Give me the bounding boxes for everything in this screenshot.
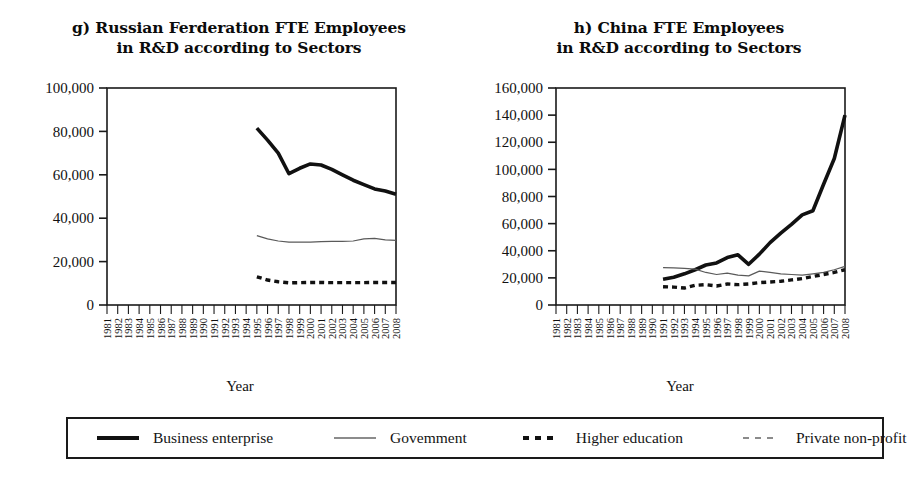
plot-frame <box>556 88 845 305</box>
y-tick-label: 40,000 <box>53 210 94 226</box>
x-tick-label: 1983 <box>123 318 134 339</box>
y-tick-label: 120,000 <box>494 134 543 150</box>
x-tick-label: 2002 <box>327 318 338 339</box>
x-tick-label: 1984 <box>134 317 145 339</box>
y-tick-label: 40,000 <box>502 243 543 259</box>
xaxis-label-russia: Year <box>0 378 450 395</box>
x-tick-label: 1993 <box>230 318 241 339</box>
x-tick-label: 1981 <box>102 318 113 339</box>
x-tick-label: 2001 <box>765 318 776 339</box>
x-tick-label: 2000 <box>754 318 765 339</box>
x-tick-label: 1995 <box>701 318 712 339</box>
series-line <box>257 236 396 243</box>
x-tick-label: 1983 <box>572 318 583 339</box>
legend-label-higher-education: Higher education <box>576 429 683 447</box>
x-tick-label: 1987 <box>166 318 177 339</box>
x-tick-label: 1997 <box>273 318 284 339</box>
legend-label-private-non-profit: Private non-profit <box>796 429 907 447</box>
x-tick-label: 1997 <box>722 318 733 339</box>
x-tick-label: 1981 <box>551 318 562 339</box>
y-tick-label: 100,000 <box>45 80 94 96</box>
legend-swatch-thick-solid <box>96 432 140 444</box>
x-tick-label: 1990 <box>198 318 209 339</box>
x-tick-label: 1994 <box>241 317 252 339</box>
y-tick-label: 80,000 <box>53 124 94 140</box>
x-tick-label: 2002 <box>776 318 787 339</box>
x-tick-label: 2005 <box>808 318 819 339</box>
x-tick-label: 1995 <box>252 318 263 339</box>
chart-panel-china: h) China FTE Employees in R&D according … <box>449 0 899 410</box>
y-tick-label: 60,000 <box>502 216 543 232</box>
x-tick-label: 2004 <box>348 317 359 339</box>
y-tick-label: 0 <box>536 297 544 313</box>
x-tick-label: 1982 <box>113 318 124 339</box>
legend-item-private-non-profit: Private non-profit <box>739 429 907 447</box>
chart-panel-russia: g) Russian Ferderation FTE Employees in … <box>0 0 450 410</box>
series-line <box>663 115 845 279</box>
x-tick-label: 2003 <box>337 318 348 339</box>
plot-china: 020,00040,00060,00080,000100,000120,0001… <box>449 0 899 380</box>
x-tick-label: 1984 <box>583 317 594 339</box>
y-tick-label: 20,000 <box>502 270 543 286</box>
legend-item-government: Govemment <box>333 429 467 447</box>
legend-swatch-thin-dashed <box>739 432 783 444</box>
x-tick-label: 1988 <box>626 318 637 339</box>
y-tick-label: 0 <box>87 297 95 313</box>
x-tick-label: 1999 <box>744 318 755 339</box>
y-tick-label: 140,000 <box>494 107 543 123</box>
series-line <box>257 277 396 283</box>
plot-russia: 020,00040,00060,00080,000100,00019811982… <box>0 0 450 380</box>
x-tick-label: 1986 <box>605 318 616 339</box>
x-tick-label: 1991 <box>209 318 220 339</box>
x-tick-label: 1996 <box>263 318 274 339</box>
x-tick-label: 1988 <box>177 318 188 339</box>
x-tick-label: 1991 <box>658 318 669 339</box>
legend-label-business-enterprise: Business enterprise <box>153 429 273 447</box>
x-tick-label: 1992 <box>220 318 231 339</box>
x-tick-label: 1985 <box>145 318 156 339</box>
x-tick-label: 1999 <box>295 318 306 339</box>
x-tick-label: 2007 <box>380 318 391 339</box>
x-tick-label: 2003 <box>786 318 797 339</box>
legend-item-higher-education: Higher education <box>519 429 683 447</box>
y-tick-label: 60,000 <box>53 167 94 183</box>
x-tick-label: 2008 <box>840 318 851 339</box>
x-tick-label: 2007 <box>829 318 840 339</box>
y-tick-label: 20,000 <box>53 254 94 270</box>
x-tick-label: 1989 <box>188 318 199 339</box>
series-line <box>257 128 396 194</box>
xaxis-label-china: Year <box>449 378 899 395</box>
legend-swatch-thick-dashed <box>519 432 563 444</box>
chart-legend: Business enterprise Govemment Higher edu… <box>66 417 884 459</box>
x-tick-label: 1998 <box>284 318 295 339</box>
x-tick-label: 2008 <box>391 318 402 339</box>
x-tick-label: 2000 <box>305 318 316 339</box>
x-tick-label: 2006 <box>819 318 830 339</box>
x-tick-label: 1990 <box>647 318 658 339</box>
legend-label-government: Govemment <box>390 429 467 447</box>
legend-item-business-enterprise: Business enterprise <box>96 429 273 447</box>
x-tick-label: 1996 <box>712 318 723 339</box>
x-tick-label: 1992 <box>669 318 680 339</box>
y-tick-label: 100,000 <box>494 162 543 178</box>
x-tick-label: 1998 <box>733 318 744 339</box>
x-tick-label: 1982 <box>562 318 573 339</box>
plot-frame <box>107 88 396 305</box>
x-tick-label: 2006 <box>370 318 381 339</box>
x-tick-label: 2005 <box>359 318 370 339</box>
x-tick-label: 1989 <box>637 318 648 339</box>
y-tick-label: 160,000 <box>494 80 543 96</box>
x-tick-label: 1986 <box>156 318 167 339</box>
x-tick-label: 1994 <box>690 317 701 339</box>
x-tick-label: 2001 <box>316 318 327 339</box>
x-tick-label: 1987 <box>615 318 626 339</box>
x-tick-label: 1993 <box>679 318 690 339</box>
x-tick-label: 2004 <box>797 317 808 339</box>
y-tick-label: 80,000 <box>502 189 543 205</box>
legend-swatch-thin-solid <box>333 432 377 444</box>
x-tick-label: 1985 <box>594 318 605 339</box>
